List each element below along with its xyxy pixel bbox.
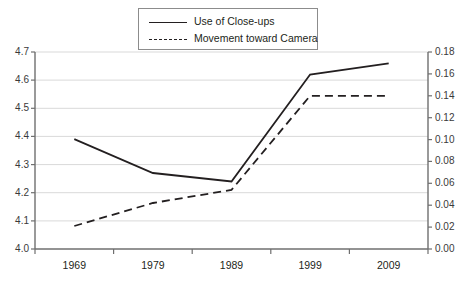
x-axis-tick-label: 1969 — [44, 260, 104, 270]
y-axis-left-tick-label: 4.1 — [3, 216, 29, 226]
x-axis-tick-label: 1989 — [202, 260, 262, 270]
y-axis-left-tick-label: 4.6 — [3, 75, 29, 85]
y-axis-left-tick-label: 4.3 — [3, 160, 29, 170]
y-axis-right-tick-label: 0.04 — [435, 200, 463, 210]
y-axis-left-tick-label: 4.0 — [3, 244, 29, 254]
y-axis-right-tick-label: 0.14 — [435, 91, 463, 101]
y-axis-left-tick-label: 4.7 — [3, 47, 29, 57]
x-axis-tick-label: 1979 — [123, 260, 183, 270]
y-axis-left-tick-label: 4.4 — [3, 131, 29, 141]
y-axis-left-tick-label: 4.2 — [3, 188, 29, 198]
plot-area — [0, 0, 463, 281]
x-axis-tick-label: 2009 — [359, 260, 419, 270]
series-line-movement-toward-camera — [74, 96, 388, 226]
y-axis-right-tick-label: 0.06 — [435, 178, 463, 188]
gridlines — [35, 52, 428, 221]
x-axis-tick-label: 1999 — [280, 260, 340, 270]
y-axis-right-tick-label: 0.18 — [435, 47, 463, 57]
series-line-use-of-close-ups — [74, 63, 388, 181]
y-axis-right-tick-label: 0.00 — [435, 244, 463, 254]
chart-container: Use of Close-ups Movement toward Camera … — [0, 0, 463, 281]
y-axis-right-tick-label: 0.16 — [435, 69, 463, 79]
y-axis-right-tick-label: 0.08 — [435, 156, 463, 166]
y-axis-left-tick-label: 4.5 — [3, 103, 29, 113]
y-axis-right-tick-label: 0.02 — [435, 222, 463, 232]
y-axis-right-tick-label: 0.12 — [435, 113, 463, 123]
y-axis-right-tick-label: 0.10 — [435, 135, 463, 145]
